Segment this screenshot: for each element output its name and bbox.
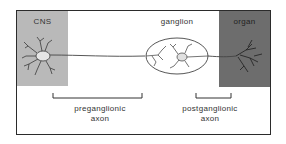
preganglionic-label-line1: preganglionic: [50, 104, 150, 114]
organ-terminal-icon: [236, 40, 262, 72]
preganglionic-bracket: [53, 93, 142, 98]
postganglionic-axon-label: postganglionic axon: [170, 104, 250, 124]
cns-label: CNS: [17, 17, 68, 27]
postganglionic-bracket: [196, 93, 231, 98]
preganglionic-axon-label: preganglionic axon: [50, 104, 150, 124]
ganglion-label: ganglion: [140, 17, 214, 27]
postganglionic-axon-line: [208, 56, 236, 57]
ganglion-neuron-icon: [146, 44, 208, 68]
organ-label: organ: [219, 17, 270, 27]
cns-neuron-icon: [22, 37, 55, 75]
preganglionic-label-line2: axon: [50, 114, 150, 124]
preganglionic-axon-line: [50, 55, 145, 56]
postganglionic-label-line2: axon: [170, 114, 250, 124]
postganglionic-label-line1: postganglionic: [170, 104, 250, 114]
